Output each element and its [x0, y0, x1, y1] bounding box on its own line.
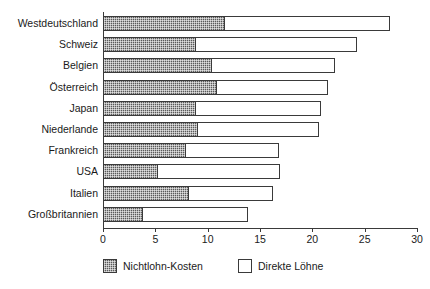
bar-segment-nonwage	[103, 186, 189, 201]
value-axis-tick	[417, 228, 418, 232]
category-label: Niederlande	[0, 124, 98, 135]
bar-row	[103, 207, 417, 222]
value-axis-tick-label: 5	[140, 233, 170, 245]
bar-segment-nonwage	[103, 80, 217, 95]
category-axis-labels: Westdeutschland Schweiz Belgien Österrei…	[0, 12, 98, 228]
legend-label: Direkte Löhne	[258, 260, 323, 273]
bar-row	[103, 16, 417, 31]
value-axis-tick-label: 30	[402, 233, 430, 245]
bar-row	[103, 186, 417, 201]
category-label: Italien	[0, 188, 98, 199]
bar-segment-wage	[216, 80, 328, 95]
category-label: Frankreich	[0, 145, 98, 156]
bar-row	[103, 143, 417, 158]
category-label: Westdeutschland	[0, 18, 98, 29]
category-label: Großbritannien	[0, 209, 98, 220]
bar-segment-nonwage	[103, 16, 225, 31]
bar-row	[103, 58, 417, 73]
bar-segment-wage	[185, 143, 279, 158]
bar-row	[103, 101, 417, 116]
bar-segment-wage	[157, 164, 279, 179]
bar-segment-nonwage	[103, 122, 198, 137]
value-axis-tick	[103, 228, 104, 232]
category-label: Österreich	[0, 82, 98, 93]
bar-row	[103, 37, 417, 52]
bar-segment-wage	[142, 207, 249, 222]
value-axis-tick-label: 0	[88, 233, 118, 245]
legend: Nichtlohn-Kosten Direkte Löhne	[0, 258, 430, 280]
bar-segment-wage	[195, 37, 357, 52]
value-axis-tick	[312, 228, 313, 232]
bar-segment-nonwage	[103, 101, 196, 116]
bar-row	[103, 80, 417, 95]
value-axis-tick	[208, 228, 209, 232]
value-axis-tick	[155, 228, 156, 232]
value-axis-tick-label: 10	[193, 233, 223, 245]
bar-segment-wage	[188, 186, 273, 201]
bar-segment-nonwage	[103, 164, 158, 179]
value-axis-tick-label: 20	[297, 233, 327, 245]
bar-segment-nonwage	[103, 37, 196, 52]
category-label: Japan	[0, 103, 98, 114]
value-axis-tick	[260, 228, 261, 232]
bar-row	[103, 164, 417, 179]
category-label: USA	[0, 166, 98, 177]
category-label: Schweiz	[0, 39, 98, 50]
legend-swatch-hatched-icon	[103, 259, 117, 273]
bar-chart: Westdeutschland Schweiz Belgien Österrei…	[0, 0, 430, 289]
value-axis-tick	[365, 228, 366, 232]
bar-segment-nonwage	[103, 58, 212, 73]
bar-row	[103, 122, 417, 137]
bar-segment-wage	[197, 122, 318, 137]
bar-segment-nonwage	[103, 207, 143, 222]
value-axis-tick-label: 25	[350, 233, 380, 245]
plot-area	[103, 12, 417, 228]
legend-swatch-plain-icon	[238, 259, 252, 273]
legend-label: Nichtlohn-Kosten	[123, 260, 203, 273]
value-axis-tick-label: 15	[245, 233, 275, 245]
bar-segment-wage	[211, 58, 336, 73]
category-label: Belgien	[0, 60, 98, 71]
bar-segment-wage	[224, 16, 389, 31]
bar-segment-wage	[195, 101, 321, 116]
bar-segment-nonwage	[103, 143, 186, 158]
